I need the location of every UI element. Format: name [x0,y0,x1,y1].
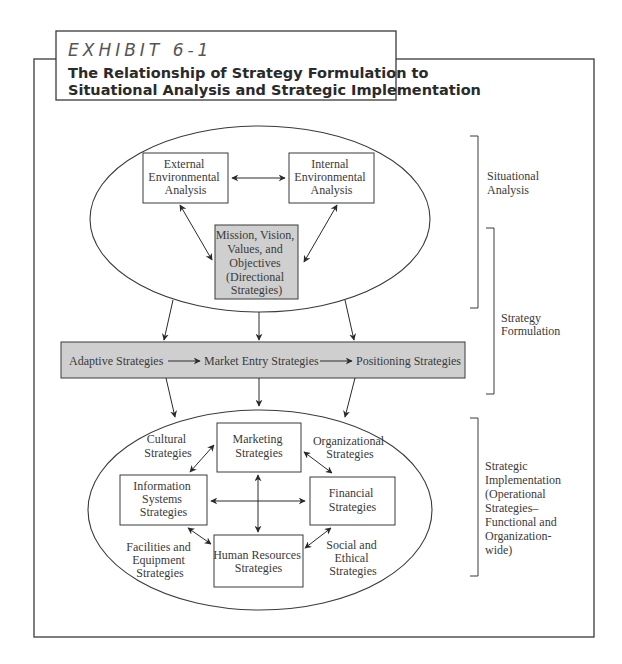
market-entry-strategies-label: Market Entry Strategies [204,354,319,368]
cultural-strategies-label: Cultural Strategies [144,432,192,460]
strategy-formulation-label: Strategy Formulation [501,311,560,338]
positioning-strategies-label: Positioning Strategies [356,354,461,368]
title-line-2: Situational Analysis and Strategic Imple… [68,82,481,98]
exhibit-label: EXHIBIT 6-1 [68,40,212,60]
strategic-implementation-bracket [470,418,478,576]
exhibit-diagram: EXHIBIT 6-1 The Relationship of Strategy… [0,0,622,664]
strategy-formulation-bracket [486,228,494,394]
strategic-implementation-label: Strategic Implementation (Operational St… [485,459,564,557]
situational-analysis-label: Situational Analysis [487,169,542,197]
information-systems-label: Information Systems Strategies [133,479,193,519]
financial-label: Financial Strategies [329,486,377,514]
formulation-in-arrows [164,300,354,340]
marketing-label: Marketing Strategies [233,432,286,460]
formulation-out-arrows [166,378,355,417]
situational-analysis-bracket [470,136,478,308]
organizational-strategies-label: Organizational Strategies [313,434,387,461]
social-ethical-strategies-label: Social and Ethical Strategies [326,538,379,578]
facilities-strategies-label: Facilities and Equipment Strategies [126,540,193,580]
adaptive-strategies-label: Adaptive Strategies [69,354,164,368]
title-line-1: The Relationship of Strategy Formulation… [68,65,428,81]
